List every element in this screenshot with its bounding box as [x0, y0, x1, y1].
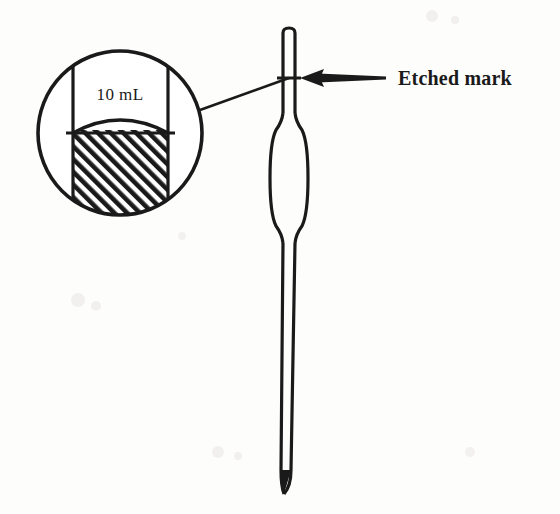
arrow-shaft — [318, 73, 386, 82]
pipet-bulb-left — [270, 113, 283, 243]
magnifier-inset: 10 mL — [36, 48, 206, 230]
pipet-diagram: 10 mL Etch — [0, 0, 560, 514]
etched-mark-label: Etched mark — [398, 67, 513, 89]
callout-arrow — [300, 69, 386, 87]
pipet-top-opening — [283, 28, 295, 113]
pipet-lower-stem-left — [281, 243, 284, 494]
inset-volume-label: 10 mL — [97, 85, 144, 104]
pipet-lower-stem-right — [284, 243, 295, 494]
volumetric-pipet — [270, 28, 308, 494]
figure-canvas: 10 mL Etch — [0, 0, 560, 514]
pipet-bulb-right — [295, 113, 308, 243]
leader-line — [200, 78, 289, 110]
